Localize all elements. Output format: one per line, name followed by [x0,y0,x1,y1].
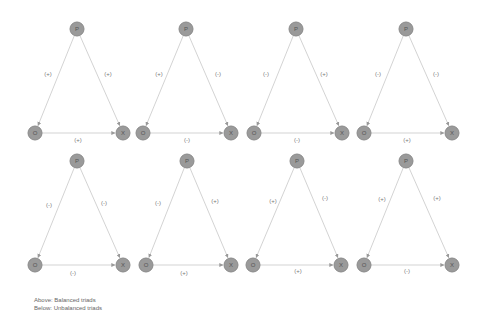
edge-label-p-o: (-) [46,202,52,208]
svg-text:X: X [229,262,233,268]
node-x: X [334,258,348,272]
edge-p-x [409,35,449,125]
edge-label-p-o: (+) [44,71,52,77]
svg-text:X: X [450,130,454,136]
svg-text:O: O [251,262,256,268]
svg-text:P: P [404,158,408,164]
edge-label-o-x: (-) [70,270,76,276]
node-p: P [399,22,413,36]
edge-label-p-x: (+) [211,198,219,204]
edge-p-x [299,35,339,125]
node-o: O [136,126,150,140]
triads-diagram: POX(+)(+)(+)POX(+)(-)(-)POX(-)(+)(-)POX(… [0,0,485,322]
node-o: O [28,126,42,140]
node-x: X [335,126,349,140]
edge-p-o [146,35,183,125]
triad-balanced-2: POX(+)(-)(-) [136,22,238,143]
edge-label-p-o: (-) [155,200,161,206]
node-p: P [399,154,413,168]
edge-label-p-x: (-) [322,195,328,201]
edge-p-x [300,167,338,257]
edge-label-p-o: (-) [263,71,269,77]
edge-label-p-o: (-) [375,71,381,77]
node-p: P [180,154,194,168]
edge-p-o [367,35,403,125]
node-x: X [116,126,130,140]
edge-p-o [256,167,294,257]
edge-label-p-o: (+) [269,198,277,204]
edge-p-o [38,167,74,257]
svg-text:O: O [141,130,146,136]
node-o: O [139,258,153,272]
svg-text:X: X [450,262,454,268]
svg-text:X: X [340,130,344,136]
triad-unbalanced-2: POX(-)(+)(+) [139,154,238,276]
node-x: X [224,126,238,140]
edge-label-o-x: (+) [294,268,302,274]
edge-p-o [367,167,403,257]
edge-label-p-x: (+) [320,71,328,77]
svg-text:P: P [294,26,298,32]
node-x: X [445,258,459,272]
edge-label-p-x: (-) [215,71,221,77]
svg-text:O: O [33,262,38,268]
edge-p-x [189,35,228,125]
edge-p-o [38,35,74,125]
edge-label-p-o: (+) [378,196,386,202]
triad-unbalanced-3: POX(+)(-)(+) [246,154,348,274]
node-x: X [445,126,459,140]
svg-text:P: P [184,26,188,32]
svg-text:O: O [144,262,149,268]
node-p: P [290,154,304,168]
edge-label-o-x: (+) [74,137,82,143]
edge-label-p-o: (+) [155,71,163,77]
svg-text:X: X [339,262,343,268]
node-o: O [246,258,260,272]
svg-text:O: O [362,262,367,268]
caption-balanced: Above: Balanced triads [34,296,102,304]
edge-label-p-x: (-) [101,200,107,206]
edge-label-o-x: (-) [294,137,300,143]
edge-p-x [80,167,120,257]
node-o: O [247,126,261,140]
edge-p-o [257,35,293,125]
node-p: P [179,22,193,36]
caption: Above: Balanced triads Below: Unbalanced… [34,296,102,312]
node-p: P [70,22,84,36]
triad-unbalanced-1: POX(-)(-)(-) [28,154,130,276]
svg-text:P: P [185,158,189,164]
svg-text:P: P [295,158,299,164]
node-o: O [357,258,371,272]
svg-text:X: X [229,130,233,136]
edge-label-p-x: (+) [104,71,112,77]
edge-label-o-x: (+) [403,137,411,143]
node-p: P [289,22,303,36]
caption-unbalanced: Below: Unbalanced triads [34,304,102,312]
triad-unbalanced-4: POX(+)(+)(-) [357,154,459,274]
edge-p-x [409,167,449,257]
edge-label-o-x: (-) [184,137,190,143]
triad-balanced-1: POX(+)(+)(+) [28,22,130,143]
node-p: P [70,154,84,168]
edge-p-x [190,167,228,257]
edge-p-o [149,168,184,258]
edge-label-p-x: (+) [433,195,441,201]
svg-text:O: O [252,130,257,136]
triad-balanced-4: POX(-)(-)(+) [357,22,459,143]
svg-text:O: O [33,130,38,136]
node-x: X [224,258,238,272]
svg-text:P: P [75,158,79,164]
node-x: X [116,258,130,272]
node-o: O [28,258,42,272]
edge-label-o-x: (+) [180,270,188,276]
triad-balanced-3: POX(-)(+)(-) [247,22,349,143]
edge-label-o-x: (-) [404,268,410,274]
triads-layer: POX(+)(+)(+)POX(+)(-)(-)POX(-)(+)(-)POX(… [28,22,459,276]
edge-p-x [80,35,120,125]
svg-text:P: P [75,26,79,32]
node-o: O [357,126,371,140]
svg-text:P: P [404,26,408,32]
edge-label-p-x: (-) [433,71,439,77]
svg-text:X: X [121,130,125,136]
svg-text:O: O [362,130,367,136]
